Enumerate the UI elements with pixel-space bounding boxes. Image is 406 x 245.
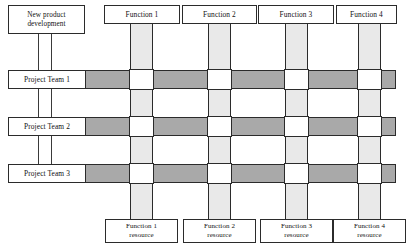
function-2-column-lower	[208, 182, 231, 220]
function-2-resource-line-2: resource	[204, 231, 235, 240]
node-project-team-3[interactable]: Project Team 3	[8, 164, 86, 183]
node-function-3[interactable]: Function 3	[258, 5, 334, 24]
connector-team-2-to-team-3	[38, 135, 52, 165]
node-function-4[interactable]: Function 4	[336, 5, 397, 24]
function-2-column-upper	[208, 23, 231, 72]
team-2-bar-segment-2	[230, 117, 286, 136]
project-team-2-label: Project Team 2	[24, 122, 70, 131]
project-team-1-label: Project Team 1	[24, 75, 70, 84]
function-2-label: Function 2	[203, 10, 236, 19]
team-1-bar-segment-2	[230, 70, 286, 89]
intersection-team-3-function-1	[129, 163, 154, 184]
intersection-team-3-function-2	[207, 163, 232, 184]
node-function-1-resource[interactable]: Function 1 resource	[105, 219, 178, 243]
intersection-team-2-function-3	[284, 116, 309, 137]
function-1-column-lower	[130, 182, 153, 220]
intersection-team-2-function-4	[357, 116, 382, 137]
team-3-bar-segment-1	[152, 164, 209, 183]
project-team-3-label: Project Team 3	[24, 169, 70, 178]
function-4-resource-line-1: Function 4	[354, 222, 385, 231]
intersection-team-1-function-2	[207, 69, 232, 90]
function-1-resource-line-2: resource	[126, 231, 157, 240]
node-function-4-resource[interactable]: Function 4 resource	[333, 219, 406, 243]
function-3-resource-line-2: resource	[281, 231, 312, 240]
team-1-bar-segment-0	[84, 70, 131, 89]
function-2-resource-line-1: Function 2	[204, 222, 235, 231]
intersection-team-1-function-4	[357, 69, 382, 90]
function-3-column-upper	[285, 23, 308, 72]
function-3-column-lower	[285, 182, 308, 220]
function-4-column-upper	[358, 23, 381, 72]
team-1-bar-segment-1	[152, 70, 209, 89]
team-3-bar-segment-2	[230, 164, 286, 183]
team-3-bar-stub	[380, 164, 396, 183]
function-3-column-segment-1	[285, 88, 308, 119]
team-2-bar-stub	[380, 117, 396, 136]
connector-root-to-team-1	[38, 33, 52, 71]
function-1-resource-line-1: Function 1	[126, 222, 157, 231]
function-2-column-segment-2	[208, 135, 231, 166]
function-4-column-lower	[358, 182, 381, 220]
root-label-line-2: development	[27, 20, 65, 29]
function-4-resource-line-2: resource	[354, 231, 385, 240]
node-project-team-2[interactable]: Project Team 2	[8, 117, 86, 136]
intersection-team-2-function-1	[129, 116, 154, 137]
function-3-column-segment-2	[285, 135, 308, 166]
intersection-team-3-function-4	[357, 163, 382, 184]
team-3-bar-segment-0	[84, 164, 131, 183]
intersection-team-3-function-3	[284, 163, 309, 184]
team-3-bar-segment-3	[307, 164, 359, 183]
function-4-label: Function 4	[350, 10, 383, 19]
node-function-2-resource[interactable]: Function 2 resource	[183, 219, 256, 243]
function-4-column-segment-1	[358, 88, 381, 119]
team-1-bar-segment-3	[307, 70, 359, 89]
intersection-team-1-function-1	[129, 69, 154, 90]
function-1-column-upper	[130, 23, 153, 72]
team-2-bar-segment-3	[307, 117, 359, 136]
team-1-bar-stub	[380, 70, 396, 89]
node-new-product-development[interactable]: New product development	[8, 5, 85, 34]
function-4-column-segment-2	[358, 135, 381, 166]
function-3-resource-line-1: Function 3	[281, 222, 312, 231]
function-3-label: Function 3	[280, 10, 313, 19]
function-1-column-segment-2	[130, 135, 153, 166]
function-1-label: Function 1	[126, 10, 159, 19]
root-label-line-1: New product	[27, 11, 65, 20]
node-function-2[interactable]: Function 2	[182, 5, 257, 24]
node-project-team-1[interactable]: Project Team 1	[8, 70, 86, 89]
intersection-team-1-function-3	[284, 69, 309, 90]
node-function-3-resource[interactable]: Function 3 resource	[260, 219, 333, 243]
function-1-column-segment-1	[130, 88, 153, 119]
node-function-1[interactable]: Function 1	[104, 5, 180, 24]
function-2-column-segment-1	[208, 88, 231, 119]
connector-team-1-to-team-2	[38, 88, 52, 118]
intersection-team-2-function-2	[207, 116, 232, 137]
team-2-bar-segment-0	[84, 117, 131, 136]
team-2-bar-segment-1	[152, 117, 209, 136]
